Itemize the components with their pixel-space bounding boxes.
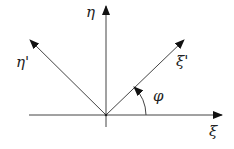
eta-prime-label: η': [16, 53, 29, 71]
origin-point: [105, 114, 108, 117]
eta-prime-axis: [30, 40, 106, 115]
xi-prime-axis: [106, 40, 184, 115]
eta-label: η: [86, 3, 95, 21]
rotation-diagram: η η' ξ' φ ξ: [0, 0, 234, 149]
angle-arc: [134, 87, 146, 115]
angle-label: φ: [153, 87, 164, 105]
xi-prime-label: ξ': [176, 52, 188, 70]
xi-label: ξ: [209, 122, 218, 140]
